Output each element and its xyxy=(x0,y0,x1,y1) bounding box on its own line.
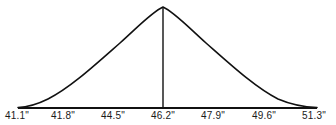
x-tick-label-mean: 46.2" xyxy=(151,110,175,121)
x-tick-label: 41.8" xyxy=(51,110,75,121)
x-tick-label: 49.6" xyxy=(252,110,276,121)
x-tick-label: 44.5" xyxy=(101,110,125,121)
x-tick-label: 51.3" xyxy=(302,110,326,121)
x-tick-label: 41.1" xyxy=(5,110,29,121)
x-tick-label: 47.9" xyxy=(201,110,225,121)
bell-curve xyxy=(18,7,317,108)
bell-curve-chart xyxy=(0,0,336,125)
